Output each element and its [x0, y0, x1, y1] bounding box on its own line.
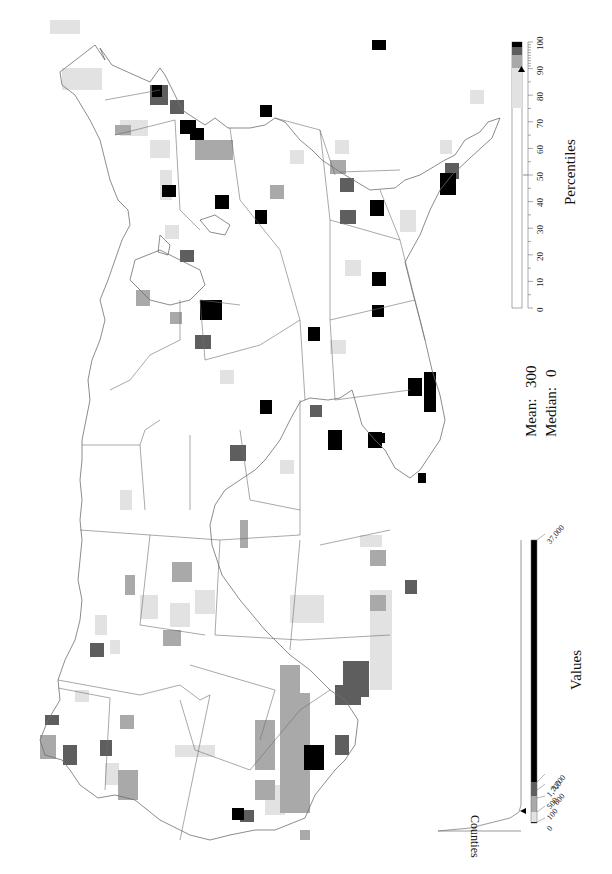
pct-tick-90: 90: [535, 66, 545, 75]
pct-tick-100: 100: [535, 37, 545, 51]
value-legend: [438, 534, 545, 831]
percentile-legend: [512, 42, 533, 308]
pct-tick-10: 10: [535, 278, 545, 287]
value-legend-title: Values: [568, 650, 585, 690]
percentile-legend-title: Percentiles: [562, 139, 579, 205]
mean-value: 300: [523, 366, 540, 389]
county-patches: [40, 20, 484, 840]
pct-tick-70: 70: [535, 119, 545, 128]
mean-label: Mean:: [523, 399, 540, 437]
pct-tick-0: 0: [535, 308, 545, 313]
median-value: 0: [543, 370, 560, 378]
county-choropleth-map: [0, 0, 612, 874]
pct-tick-50: 50: [535, 172, 545, 181]
pct-tick-40: 40: [535, 198, 545, 207]
pct-tick-60: 60: [535, 145, 545, 154]
pct-tick-30: 30: [535, 225, 545, 234]
median-marker-icon: [520, 808, 526, 814]
state-boundaries: [58, 90, 425, 840]
counts-label: Counties: [467, 815, 482, 858]
pct-tick-80: 80: [535, 92, 545, 101]
pct-tick-20: 20: [535, 252, 545, 261]
median-label: Median:: [543, 387, 560, 437]
